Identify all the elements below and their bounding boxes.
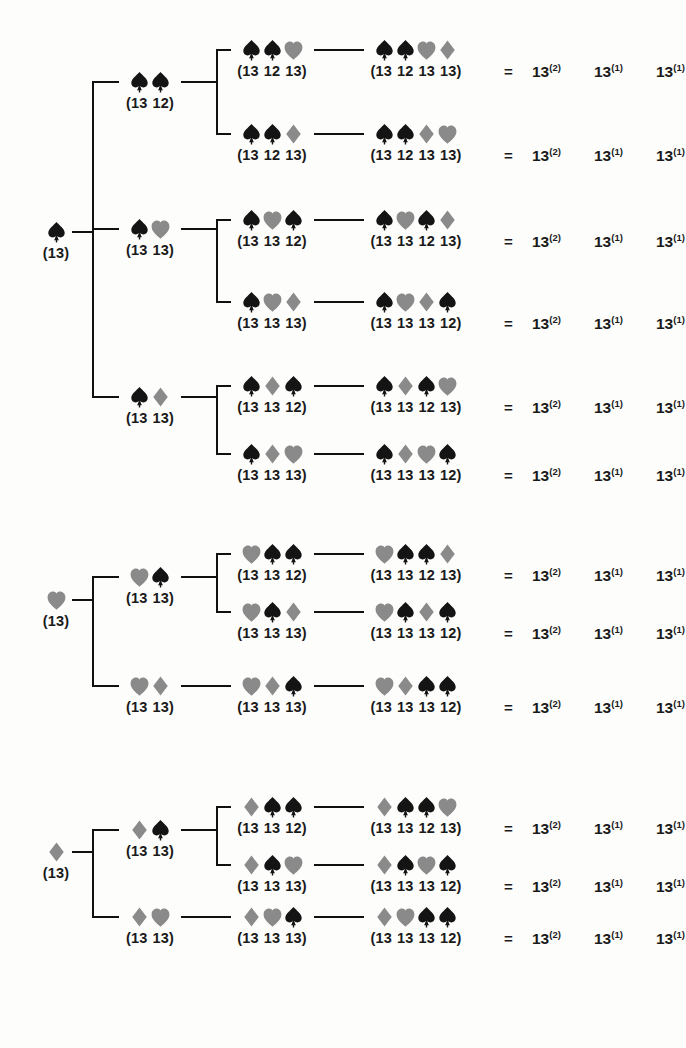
count-token: 13) bbox=[153, 843, 175, 859]
spade-icon bbox=[374, 122, 395, 146]
count-token: 13 bbox=[397, 930, 414, 946]
spade-icon bbox=[395, 542, 416, 566]
count-token: 13) bbox=[440, 399, 462, 415]
group-spade-level4-node[interactable]: (13131312) bbox=[364, 440, 468, 483]
count-token: 12) bbox=[153, 95, 175, 111]
group-spade-level2-node[interactable]: (1313) bbox=[119, 383, 181, 426]
count-token: 13 bbox=[419, 699, 436, 715]
group-diamond-level3-connector bbox=[216, 806, 231, 808]
group-spade-root-node[interactable]: (13) bbox=[36, 218, 77, 261]
group-heart-level4-connector bbox=[314, 611, 365, 613]
group-spade-level4-node[interactable]: (13121313) bbox=[364, 120, 468, 163]
count-token: 13 bbox=[264, 315, 281, 331]
count-token: (13 bbox=[370, 315, 392, 331]
suit-spade bbox=[374, 442, 395, 466]
group-diamond-level3-node[interactable]: (131312) bbox=[231, 793, 314, 836]
group-diamond-level4-node[interactable]: (13131312) bbox=[364, 903, 468, 946]
group-spade-level3-node[interactable]: (131213) bbox=[231, 36, 314, 79]
heart-icon bbox=[241, 600, 262, 624]
group-spade-level2-node[interactable]: (1313) bbox=[119, 215, 181, 258]
group-heart-root-node[interactable]: (13) bbox=[36, 586, 77, 629]
count-token: 12 bbox=[264, 63, 281, 79]
count-token: (13 bbox=[126, 699, 148, 715]
suit-row bbox=[374, 540, 458, 566]
count-token: (13) bbox=[43, 865, 70, 881]
count-token: 13) bbox=[440, 147, 462, 163]
suit-row bbox=[129, 672, 171, 698]
spade-icon bbox=[129, 70, 150, 94]
count-row: (131312) bbox=[237, 233, 307, 249]
group-spade-result-term: 13(1) bbox=[656, 146, 685, 165]
count-token: 12 bbox=[419, 233, 436, 249]
group-heart-level3-node[interactable]: (131313) bbox=[231, 672, 314, 715]
group-spade-level4-connector bbox=[314, 385, 365, 387]
suit-heart bbox=[150, 905, 171, 929]
group-spade-level4-node[interactable]: (13131312) bbox=[364, 288, 468, 331]
suit-row bbox=[241, 288, 304, 314]
group-diamond-result-term: 13(1) bbox=[594, 877, 623, 896]
group-spade-result-equals: = bbox=[504, 147, 513, 164]
count-row: (13131213) bbox=[370, 820, 461, 836]
group-spade-level4-node[interactable]: (13131213) bbox=[364, 206, 468, 249]
suit-spade bbox=[150, 565, 171, 589]
suit-diamond bbox=[416, 600, 437, 624]
group-spade-level3-node[interactable]: (131312) bbox=[231, 372, 314, 415]
count-token: 13) bbox=[153, 930, 175, 946]
count-token: (13) bbox=[43, 613, 70, 629]
group-spade-result-term: 13(1) bbox=[594, 232, 623, 251]
group-diamond-level3-node[interactable]: (131313) bbox=[231, 851, 314, 894]
spade-icon bbox=[437, 853, 458, 877]
group-spade-result-term: 13(1) bbox=[656, 314, 685, 333]
group-heart-result-term: 13(2) bbox=[532, 624, 561, 643]
group-diamond-level4-connector bbox=[314, 916, 365, 918]
group-diamond-level3-node[interactable]: (131313) bbox=[231, 903, 314, 946]
group-diamond-level2-node[interactable]: (1313) bbox=[119, 903, 181, 946]
spade-icon bbox=[283, 542, 304, 566]
group-heart-level2-node[interactable]: (1313) bbox=[119, 563, 181, 606]
count-token: (13 bbox=[237, 625, 259, 641]
count-token: 13) bbox=[440, 567, 462, 583]
group-spade-level4-node[interactable]: (13131213) bbox=[364, 372, 468, 415]
diamond-icon bbox=[129, 905, 150, 929]
group-spade-result-term: 13(2) bbox=[532, 146, 561, 165]
suit-spade bbox=[395, 38, 416, 62]
count-token: 12) bbox=[285, 233, 307, 249]
group-spade-level2-node[interactable]: (1312) bbox=[119, 68, 181, 111]
count-token: 13 bbox=[397, 699, 414, 715]
heart-icon bbox=[241, 542, 262, 566]
suit-diamond bbox=[241, 905, 262, 929]
group-heart-level4-node[interactable]: (13131213) bbox=[364, 540, 468, 583]
spade-icon bbox=[374, 442, 395, 466]
group-spade-level3-node[interactable]: (131313) bbox=[231, 288, 314, 331]
spade-icon bbox=[437, 290, 458, 314]
group-diamond-level2-node[interactable]: (1313) bbox=[119, 816, 181, 859]
group-diamond-root-node[interactable]: (13) bbox=[36, 838, 77, 881]
group-diamond-level4-node[interactable]: (13131312) bbox=[364, 851, 468, 894]
count-token: 13) bbox=[285, 467, 307, 483]
group-spade-result-term: 13(2) bbox=[532, 466, 561, 485]
group-heart-level4-node[interactable]: (13131312) bbox=[364, 672, 468, 715]
group-diamond-level4-node[interactable]: (13131213) bbox=[364, 793, 468, 836]
group-spade-level3-node[interactable]: (131312) bbox=[231, 206, 314, 249]
suit-spade bbox=[241, 442, 262, 466]
spade-icon bbox=[437, 905, 458, 929]
heart-icon bbox=[283, 38, 304, 62]
group-spade-result-term: 13(1) bbox=[594, 314, 623, 333]
suit-row bbox=[374, 372, 458, 398]
suit-row bbox=[241, 540, 304, 566]
group-heart-level3-node[interactable]: (131313) bbox=[231, 598, 314, 641]
count-token: 13 bbox=[264, 399, 281, 415]
diamond-icon bbox=[150, 385, 171, 409]
group-spade-level3-node[interactable]: (131313) bbox=[231, 440, 314, 483]
heart-icon bbox=[150, 905, 171, 929]
group-heart-level2-node[interactable]: (1313) bbox=[119, 672, 181, 715]
suit-row bbox=[374, 672, 458, 698]
group-spade-level4-node[interactable]: (13121313) bbox=[364, 36, 468, 79]
count-row: (131312) bbox=[237, 567, 307, 583]
spade-icon bbox=[241, 442, 262, 466]
group-spade-level3-node[interactable]: (131213) bbox=[231, 120, 314, 163]
group-heart-level3-node[interactable]: (131312) bbox=[231, 540, 314, 583]
group-heart-level4-node[interactable]: (13131312) bbox=[364, 598, 468, 641]
spade-icon bbox=[374, 290, 395, 314]
suit-spade bbox=[374, 122, 395, 146]
